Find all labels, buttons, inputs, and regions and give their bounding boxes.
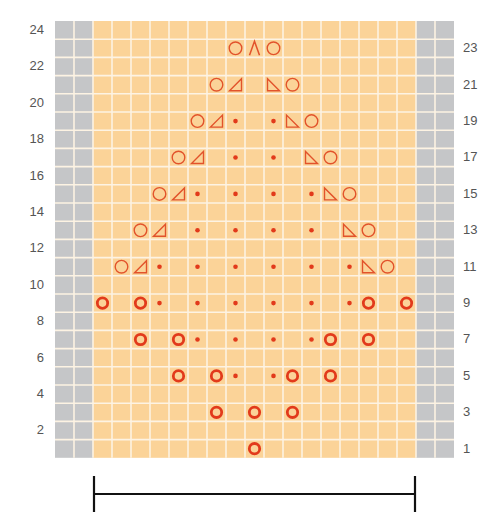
- repeat-bracket: [0, 0, 503, 531]
- knitting-chart: 24222018161412108642 2321191715131197531: [0, 0, 503, 531]
